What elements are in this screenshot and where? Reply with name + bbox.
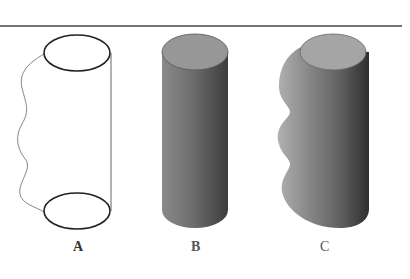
panel-b: B [162,34,228,254]
bottom-ellipse [44,193,110,229]
label-b: B [191,239,200,254]
label-a: A [73,239,84,254]
cylinder-body [162,52,228,228]
wavy-body [278,46,369,228]
panel-c: C [278,34,369,254]
top-ellipse [44,35,110,71]
label-c: C [320,239,329,254]
panel-a: A [18,35,111,254]
wavy-profile-line [18,54,44,212]
wavy-body-top [300,34,366,70]
cylinder-top [162,34,228,70]
cylinder-figure: A B C [0,0,410,279]
